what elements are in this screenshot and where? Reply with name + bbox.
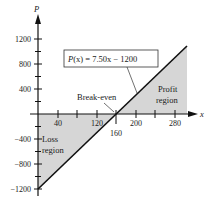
y-tick-neg800: −800 xyxy=(14,160,31,169)
profit-region-label-1: Profit xyxy=(158,84,178,94)
y-tick-neg400: −400 xyxy=(14,135,31,144)
equation-leader xyxy=(127,67,137,93)
x-tick-200: 200 xyxy=(130,119,142,128)
x-axis-label: x xyxy=(199,109,204,119)
x-tick-280: 280 xyxy=(169,119,181,128)
x-axis-arrow-icon xyxy=(188,111,198,117)
y-axis-label: P xyxy=(33,4,39,14)
y-tick-neg1200: −1200 xyxy=(10,185,31,194)
y-tick-1200: 1200 xyxy=(15,35,31,44)
profit-region-label-2: region xyxy=(156,95,178,105)
break-even-leader xyxy=(104,103,114,112)
x-tick-160: 160 xyxy=(110,129,122,138)
loss-region-label-2: region xyxy=(42,145,64,155)
loss-region-label-1: Loss xyxy=(42,134,58,144)
break-even-chart: P x 1200 800 400 −400 −800 −1200 40 120 … xyxy=(0,0,210,204)
y-tick-800: 800 xyxy=(19,60,31,69)
y-axis-arrow-icon xyxy=(35,14,41,24)
x-tick-120: 120 xyxy=(91,119,103,128)
x-tick-40: 40 xyxy=(54,119,62,128)
break-even-label: Break-even xyxy=(77,92,117,102)
equation-label: P(x) = 7.50x − 1200 xyxy=(67,54,137,64)
y-tick-400: 400 xyxy=(19,85,31,94)
